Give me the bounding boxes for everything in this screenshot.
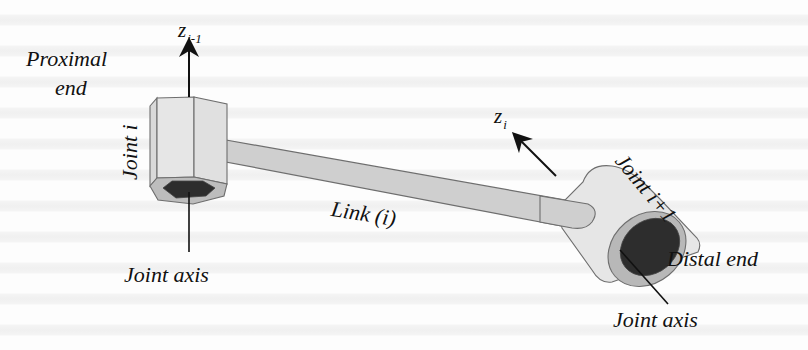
z-i-minus-1-base: z [178, 18, 186, 42]
z-i-axis-arrow [519, 139, 556, 176]
joint-axis-left-label: Joint axis [124, 264, 209, 286]
joint-axis-right-label: Joint axis [613, 309, 698, 331]
joint-i-plus-1-cylinder [540, 166, 701, 302]
z-i-label: zi [494, 106, 507, 127]
distal-end-label: Distal end [667, 248, 758, 270]
z-i-base: z [494, 104, 502, 128]
joint-i-hex-prism [150, 97, 227, 204]
z-i-subscript: i [503, 117, 507, 132]
z-i-minus-1-label: zi-1 [178, 20, 202, 41]
joint-i-label: Joint i [119, 124, 141, 180]
proximal-end-label-line1: Proximal [26, 48, 107, 70]
proximal-end-label-line2: end [55, 77, 87, 99]
z-i-minus-1-subscript: i-1 [187, 31, 201, 46]
